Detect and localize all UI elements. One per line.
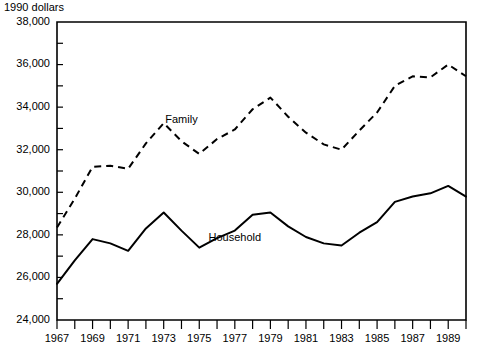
- chart-container: 1990 dollars 24,00026,00028,00030,00032,…: [0, 0, 481, 348]
- series-line-family: [57, 65, 466, 228]
- y-axis-tick-label: 30,000: [16, 185, 50, 197]
- x-axis-tick-label: 1969: [80, 332, 104, 344]
- x-axis-tick-label: 1985: [365, 332, 389, 344]
- x-axis-tick-label: 1981: [294, 332, 318, 344]
- y-axis-tick-label: 32,000: [16, 143, 50, 155]
- y-axis-ticks: [57, 43, 63, 298]
- x-axis-tick-label: 1971: [116, 332, 140, 344]
- y-axis-title: 1990 dollars: [4, 1, 64, 13]
- series-line-household: [57, 186, 466, 284]
- data-series-group: [57, 65, 466, 284]
- series-label-household: Household: [209, 231, 262, 243]
- y-axis-tick-label: 26,000: [16, 270, 50, 282]
- y-axis-tick-label: 34,000: [16, 100, 50, 112]
- x-axis-tick-label: 1979: [258, 332, 282, 344]
- x-axis-tick-label: 1973: [151, 332, 175, 344]
- x-axis-tick-label: 1967: [45, 332, 69, 344]
- plot-frame: [57, 22, 466, 320]
- x-axis-ticks: [57, 320, 466, 329]
- x-axis-tick-label: 1975: [187, 332, 211, 344]
- y-axis-tick-label: 28,000: [16, 228, 50, 240]
- y-axis-tick-label: 24,000: [16, 313, 50, 325]
- y-axis-tick-label: 36,000: [16, 57, 50, 69]
- y-axis-tick-labels: 24,00026,00028,00030,00032,00034,00036,0…: [16, 15, 50, 325]
- line-chart: 1990 dollars 24,00026,00028,00030,00032,…: [0, 0, 481, 348]
- x-axis-tick-label: 1989: [436, 332, 460, 344]
- x-axis-tick-labels: 1967196919711973197519771979198119831985…: [45, 332, 461, 344]
- x-axis-tick-label: 1983: [329, 332, 353, 344]
- series-annotations: FamilyHousehold: [165, 113, 261, 243]
- x-axis-tick-label: 1977: [223, 332, 247, 344]
- x-axis-tick-label: 1987: [400, 332, 424, 344]
- series-label-family: Family: [165, 113, 198, 125]
- y-axis-tick-label: 38,000: [16, 15, 50, 27]
